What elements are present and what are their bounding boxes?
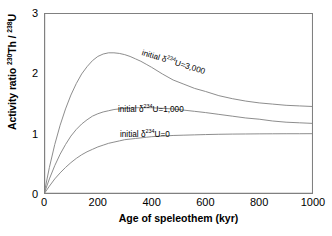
curve-label-mass: 234 [146, 128, 155, 134]
plot-area [44, 13, 313, 194]
curve-series-2 [44, 134, 313, 194]
x-tick-label: 800 [237, 196, 281, 208]
curve-series-0 [44, 53, 313, 194]
y-tick-labels: 0123 [8, 13, 38, 194]
x-axis-title: Age of speleothem (kyr) [44, 212, 313, 224]
y-tick-label: 3 [12, 7, 38, 19]
chart-figure: Activity ratio 230Th / 238U 0123 0200400… [0, 0, 332, 236]
curve-label-mass: 234 [144, 103, 153, 109]
curve-label-value: U=0 [155, 130, 170, 139]
curve-series-1 [44, 108, 313, 194]
x-tick-label: 400 [130, 196, 174, 208]
y-tick-label: 2 [12, 67, 38, 79]
x-tick-labels: 02004006008001000 [44, 196, 313, 212]
plot-svg [44, 13, 313, 194]
y-tick-label: 1 [12, 128, 38, 140]
curve-label-value: U=1,000 [153, 105, 184, 114]
x-tick-label: 200 [76, 196, 120, 208]
x-tick-label: 600 [183, 196, 227, 208]
x-tick-label: 0 [22, 196, 66, 208]
x-tick-label: 1000 [291, 196, 332, 208]
curve-label-prefix: initial [120, 130, 141, 139]
curve-label-prefix: initial [118, 105, 139, 114]
curve-label-1000: initial δ234U=1,000 [118, 105, 184, 114]
curve-label-0: initial δ234U=0 [120, 130, 170, 139]
